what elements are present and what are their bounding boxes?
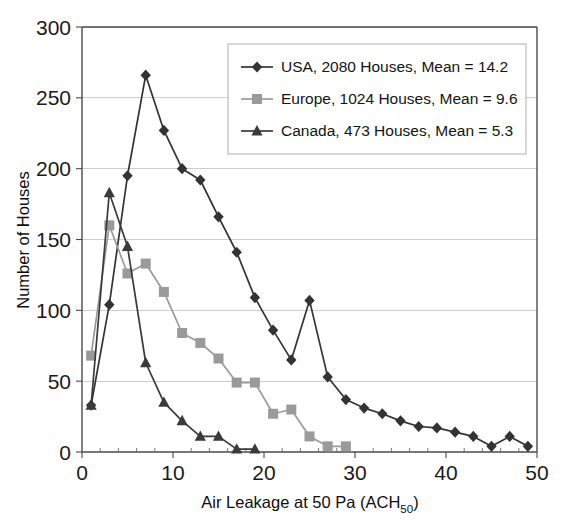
legend-label: Europe, 1024 Houses, Mean = 9.6 xyxy=(281,90,518,107)
data-point-marker xyxy=(177,163,187,174)
data-point-marker xyxy=(523,441,533,452)
series-line xyxy=(91,193,255,449)
y-tick-label: 300 xyxy=(36,16,71,39)
data-point-marker xyxy=(268,325,278,336)
x-axis: 01020304050 xyxy=(76,448,549,484)
data-point-marker xyxy=(341,441,351,451)
data-point-marker xyxy=(359,402,369,413)
data-point-marker xyxy=(122,170,132,181)
legend-entry-europe[interactable]: Europe, 1024 Houses, Mean = 9.6 xyxy=(241,90,518,107)
chart-container: 050100150200250300 01020304050 USA, 2080… xyxy=(0,0,579,524)
data-point-marker xyxy=(286,405,296,415)
data-point-marker xyxy=(304,295,314,306)
data-point-marker xyxy=(214,354,224,364)
data-point-marker xyxy=(450,427,460,438)
data-point-marker xyxy=(141,259,151,269)
data-point-marker xyxy=(195,338,205,348)
data-point-marker xyxy=(177,328,187,338)
data-point-marker xyxy=(213,211,223,222)
data-point-marker xyxy=(158,396,169,406)
data-point-marker xyxy=(414,421,424,432)
data-point-marker xyxy=(377,408,387,419)
data-point-marker xyxy=(286,354,296,365)
data-point-marker xyxy=(140,357,151,367)
legend-entry-canada[interactable]: Canada, 473 Houses, Mean = 5.3 xyxy=(241,122,513,139)
y-tick-label: 50 xyxy=(48,370,71,393)
data-point-marker xyxy=(122,241,133,251)
x-tick-label: 50 xyxy=(525,461,548,484)
data-point-marker xyxy=(250,292,260,303)
data-point-marker xyxy=(305,431,315,441)
data-point-marker xyxy=(468,431,478,442)
x-axis-title: Air Leakage at 50 Pa (ACH50) xyxy=(201,493,418,515)
data-point-marker xyxy=(141,70,151,81)
x-axis-title-main: Air Leakage at 50 Pa (ACH xyxy=(201,493,400,511)
data-point-marker xyxy=(323,441,333,451)
x-tick-label: 10 xyxy=(161,461,184,484)
data-point-marker xyxy=(195,174,205,185)
data-point-marker xyxy=(250,378,260,388)
data-point-marker xyxy=(268,409,278,419)
data-point-marker xyxy=(432,422,442,433)
y-axis-title: Number of Houses xyxy=(14,171,32,309)
data-point-marker xyxy=(232,247,242,258)
x-axis-title-subscript: 50 xyxy=(400,503,413,515)
data-point-marker xyxy=(486,441,496,452)
y-tick-label: 250 xyxy=(36,86,71,109)
x-tick-label: 20 xyxy=(252,461,275,484)
legend-entry-usa[interactable]: USA, 2080 Houses, Mean = 14.2 xyxy=(241,58,508,75)
data-point-marker xyxy=(395,415,405,426)
data-point-marker xyxy=(104,187,115,197)
data-point-marker xyxy=(159,125,169,136)
y-tick-label: 200 xyxy=(36,157,71,180)
legend-label: Canada, 473 Houses, Mean = 5.3 xyxy=(281,122,513,139)
data-point-marker xyxy=(104,299,114,310)
data-point-marker xyxy=(232,378,242,388)
data-point-marker xyxy=(505,431,515,442)
x-tick-label: 40 xyxy=(434,461,457,484)
x-tick-label: 30 xyxy=(343,461,366,484)
legend-label: USA, 2080 Houses, Mean = 14.2 xyxy=(281,58,508,75)
series-europe xyxy=(86,220,351,451)
y-tick-label: 100 xyxy=(36,299,71,322)
chart-legend: USA, 2080 Houses, Mean = 14.2Europe, 102… xyxy=(228,44,526,154)
line-chart: 050100150200250300 01020304050 USA, 2080… xyxy=(0,0,579,524)
y-tick-label: 0 xyxy=(59,441,71,464)
data-point-marker xyxy=(159,287,169,297)
x-axis-title-tail: ) xyxy=(413,493,419,511)
x-tick-label: 0 xyxy=(76,461,88,484)
data-point-marker xyxy=(252,94,262,104)
y-tick-label: 150 xyxy=(36,228,71,251)
